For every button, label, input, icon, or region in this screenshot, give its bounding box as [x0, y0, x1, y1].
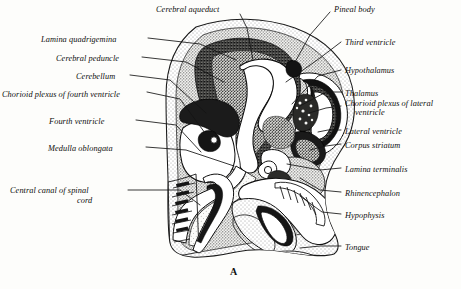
label-cerebellum: Cerebellum: [76, 72, 115, 81]
label-lamina-terminalis: Lamina terminalis: [345, 165, 407, 174]
label-rhinencephalon: Rhinencephalon: [345, 189, 400, 198]
label-chorioid-plexus-lateral-ventricle-line1: Chorioid plexus of lateral: [345, 99, 433, 108]
anatomical-figure: Cerebral aqueduct Lamina quadrigemina Ce…: [0, 0, 461, 289]
label-thalamus: Thalamus: [345, 89, 378, 98]
label-central-canal-spinal-cord-line1: Central canal of spinal: [10, 186, 89, 195]
label-hypophysis: Hypophysis: [345, 211, 385, 220]
label-lateral-ventricle: Lateral ventricle: [345, 127, 402, 136]
label-central-canal-spinal-cord-line2: cord: [77, 196, 92, 205]
label-tongue: Tongue: [345, 243, 370, 252]
label-fourth-ventricle: Fourth ventricle: [49, 117, 104, 126]
label-third-ventricle: Third ventricle: [345, 38, 395, 47]
label-chorioid-plexus-fourth-ventricle: Chorioid plexus of fourth ventricle: [2, 90, 120, 99]
label-corpus-striatum: Corpus striatum: [345, 141, 400, 150]
label-medulla-oblongata: Medulla oblongata: [48, 144, 113, 153]
label-hypothalamus: Hypothalamus: [345, 66, 394, 75]
label-cerebral-peduncle: Cerebral peduncle: [56, 54, 119, 63]
figure-caption: A: [230, 266, 237, 277]
label-lamina-quadrigemina: Lamina quadrigemina: [41, 35, 117, 44]
label-cerebral-aqueduct: Cerebral aqueduct: [156, 5, 220, 14]
label-pineal-body: Pineal body: [334, 5, 375, 14]
label-chorioid-plexus-lateral-ventricle-line2: ventricle: [355, 108, 385, 117]
